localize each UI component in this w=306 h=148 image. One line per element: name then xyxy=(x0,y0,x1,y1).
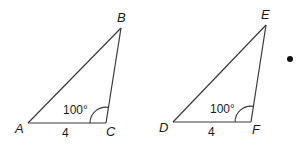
vertex-label-c: C xyxy=(106,124,116,139)
side-ef xyxy=(251,25,266,122)
side-label-df: 4 xyxy=(208,125,215,139)
diagram-canvas: A B C 100° 4 D E F 100° 4 xyxy=(0,0,306,148)
vertex-label-a: A xyxy=(14,121,24,136)
side-label-ac: 4 xyxy=(62,126,69,140)
triangle-def: D E F 100° 4 xyxy=(159,7,270,139)
bullet-dot xyxy=(287,56,293,62)
vertex-label-f: F xyxy=(252,122,261,137)
angle-label-f: 100° xyxy=(210,102,235,116)
vertex-label-d: D xyxy=(159,120,168,135)
triangle-abc: A B C 100° 4 xyxy=(14,10,126,140)
vertex-label-b: B xyxy=(117,10,126,25)
angle-f-arc xyxy=(235,106,254,122)
side-bc xyxy=(106,28,121,123)
angle-label-c: 100° xyxy=(63,103,88,117)
vertex-label-e: E xyxy=(261,7,270,22)
angle-c-arc xyxy=(90,107,109,123)
